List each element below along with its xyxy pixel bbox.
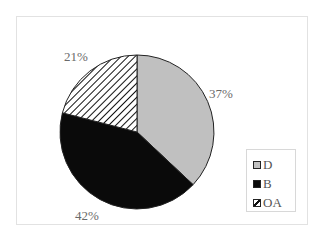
slice-label-b: 42%: [75, 209, 99, 222]
legend-item-d: D: [253, 158, 272, 171]
slice-label-d: 37%: [209, 87, 233, 100]
legend: D B OA: [246, 149, 296, 212]
legend-item-b: B: [253, 177, 272, 190]
legend-swatch-b-icon: [253, 180, 261, 188]
legend-swatch-oa-icon: [253, 199, 261, 207]
legend-label-oa: OA: [263, 196, 282, 209]
slice-label-oa: 21%: [64, 50, 88, 63]
legend-item-oa: OA: [253, 196, 282, 209]
legend-label-b: B: [263, 177, 272, 190]
legend-swatch-d-icon: [253, 161, 261, 169]
legend-label-d: D: [263, 158, 272, 171]
